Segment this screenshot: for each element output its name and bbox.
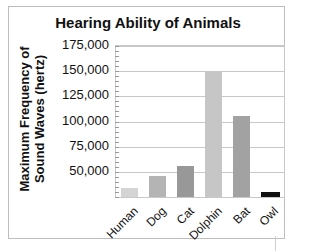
minor-tick <box>115 91 119 92</box>
gridline <box>116 46 284 47</box>
y-tick-label: 150,000 <box>29 62 109 77</box>
minor-tick <box>115 127 119 128</box>
minor-tick <box>115 172 119 173</box>
minor-tick <box>115 96 119 97</box>
minor-tick <box>115 61 119 62</box>
minor-tick <box>115 182 119 183</box>
gridline <box>116 147 284 148</box>
minor-tick <box>115 76 119 77</box>
gridline <box>116 172 284 173</box>
gridline <box>116 71 284 72</box>
minor-tick <box>115 192 119 193</box>
minor-tick <box>115 152 119 153</box>
minor-tick <box>115 122 119 123</box>
minor-tick <box>115 71 119 72</box>
minor-tick <box>115 147 119 148</box>
bar-dog <box>149 176 166 197</box>
y-tick-label: 175,000 <box>29 37 109 52</box>
minor-tick <box>115 86 119 87</box>
y-tick-label: 50,000 <box>29 163 109 178</box>
bar-bat <box>233 116 250 197</box>
y-tick-label: 75,000 <box>29 138 109 153</box>
minor-tick <box>115 157 119 158</box>
minor-tick <box>115 197 119 198</box>
minor-tick <box>115 66 119 67</box>
minor-tick <box>115 137 119 138</box>
minor-tick <box>115 56 119 57</box>
minor-tick <box>115 177 119 178</box>
bar-owl <box>261 192 280 197</box>
minor-tick <box>115 101 119 102</box>
minor-tick <box>115 116 119 117</box>
minor-tick <box>115 132 119 133</box>
minor-tick <box>115 142 119 143</box>
y-tick-label: 125,000 <box>29 87 109 102</box>
gridline <box>116 96 284 97</box>
y-tick-label: 100,000 <box>29 113 109 128</box>
bar-dolphin <box>205 71 222 197</box>
minor-tick <box>115 106 119 107</box>
gridline <box>116 122 284 123</box>
minor-tick <box>115 111 119 112</box>
bar-human <box>121 188 138 197</box>
minor-tick <box>115 162 119 163</box>
plot-area <box>115 45 285 198</box>
minor-tick <box>115 81 119 82</box>
minor-tick <box>115 187 119 188</box>
minor-tick <box>115 167 119 168</box>
divider <box>275 236 276 251</box>
minor-tick <box>115 46 119 47</box>
bar-cat <box>177 166 194 197</box>
minor-tick <box>115 51 119 52</box>
